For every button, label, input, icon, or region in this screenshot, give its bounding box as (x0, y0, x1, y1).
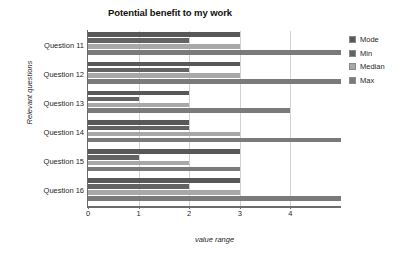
legend-label-min: Min (360, 49, 372, 58)
legend-item-max[interactable]: Max (349, 74, 404, 88)
gridline (240, 31, 241, 206)
bar-min-question-15 (88, 155, 139, 160)
bar-max-question-13 (88, 108, 290, 113)
bar-max-question-16 (88, 196, 341, 201)
x-tick-label-0: 0 (86, 209, 90, 218)
chart-title: Potential benefit to my work (0, 7, 340, 18)
y-axis-label-question-16: Question 16 (2, 186, 88, 195)
gridline (290, 31, 291, 206)
y-axis-label-question-12: Question 12 (2, 70, 88, 79)
y-axis-line (87, 30, 88, 207)
y-axis-category-labels: Question 11Question 12Question 13Questio… (0, 31, 88, 206)
legend-swatch-max-icon (349, 77, 356, 84)
x-tick-label-2: 2 (187, 209, 191, 218)
bar-min-question-11 (88, 38, 189, 43)
legend-swatch-mode-icon (349, 36, 356, 43)
bar-max-question-11 (88, 50, 341, 55)
y-axis-label-question-11: Question 11 (2, 41, 88, 50)
bar-max-question-12 (88, 79, 341, 84)
bar-mode-question-15 (88, 149, 240, 154)
plot-area (88, 31, 341, 206)
x-axis-line (87, 206, 341, 208)
y-axis-label-question-14: Question 14 (2, 128, 88, 137)
legend-label-max: Max (360, 76, 374, 85)
legend-item-median[interactable]: Median (349, 60, 404, 74)
bar-median-question-13 (88, 103, 189, 108)
bar-mode-question-13 (88, 91, 189, 96)
bar-mode-question-12 (88, 62, 240, 67)
y-axis-label-question-13: Question 13 (2, 99, 88, 108)
legend-item-min[interactable]: Min (349, 47, 404, 61)
legend-swatch-min-icon (349, 50, 356, 57)
bar-median-question-11 (88, 44, 240, 49)
bar-mode-question-11 (88, 32, 240, 37)
x-tick-label-4: 4 (288, 209, 292, 218)
chart-legend: ModeMinMedianMax (349, 33, 404, 87)
y-axis-label-question-15: Question 15 (2, 157, 88, 166)
bar-median-question-12 (88, 73, 240, 78)
bar-median-question-16 (88, 190, 240, 195)
bar-median-question-14 (88, 132, 240, 137)
bar-mode-question-14 (88, 120, 189, 125)
bar-max-question-14 (88, 138, 341, 143)
bar-min-question-16 (88, 184, 189, 189)
x-tick-label-3: 3 (238, 209, 242, 218)
legend-label-mode: Mode (360, 35, 379, 44)
x-axis-title: value range (88, 235, 341, 244)
bar-min-question-14 (88, 126, 189, 131)
bar-max-question-15 (88, 167, 240, 172)
bar-chart: Potential benefit to my work Relevant qu… (0, 0, 404, 259)
legend-swatch-median-icon (349, 63, 356, 70)
bar-min-question-12 (88, 68, 189, 73)
bar-min-question-13 (88, 97, 139, 102)
bar-median-question-15 (88, 161, 189, 166)
x-tick-label-1: 1 (137, 209, 141, 218)
legend-label-median: Median (360, 62, 385, 71)
legend-item-mode[interactable]: Mode (349, 33, 404, 47)
bar-mode-question-16 (88, 178, 240, 183)
